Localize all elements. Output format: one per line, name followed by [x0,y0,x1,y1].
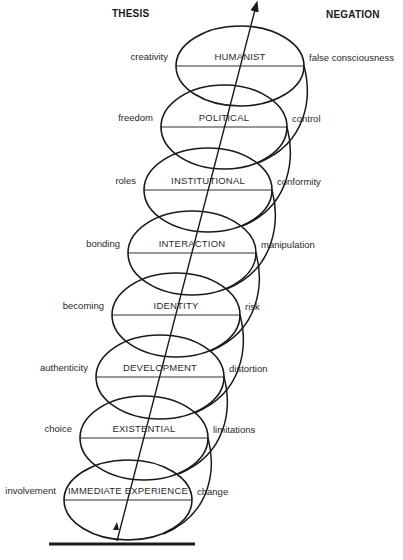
level-name: INTERACTION [159,238,226,249]
thesis-label: bonding [86,238,120,249]
thesis-label: becoming [63,300,104,311]
negation-header: NEGATION [326,9,380,20]
negation-label: risk [245,301,260,312]
level-name: POLITICAL [199,112,249,123]
thesis-label: creativity [131,51,168,62]
level-name: IDENTITY [154,300,199,311]
negation-label: manipulation [261,239,315,250]
thesis-label: freedom [118,112,153,123]
negation-label: distortion [229,363,268,374]
level-name: IMMEDIATE EXPERIENCE [68,485,188,496]
negation-label: control [292,113,321,124]
level-name: INSTITUTIONAL [171,175,245,186]
level-name: HUMANIST [214,51,265,62]
spiral-diagram [0,0,403,560]
thesis-label: authenticity [40,362,88,373]
level-name: EXISTENTIAL [113,423,176,434]
negation-label: limitations [213,424,255,435]
growth-axis-arrow [117,6,256,541]
base-arrow-icon [113,522,119,530]
negation-label: change [197,486,228,497]
negation-label: conformity [277,176,321,187]
negation-label: false consciousness [309,52,394,63]
level-name: DEVELOPMENT [123,362,197,373]
thesis-label: choice [45,423,72,434]
thesis-label: involvement [5,485,56,496]
thesis-label: roles [115,175,136,186]
thesis-header: THESIS [112,8,149,19]
